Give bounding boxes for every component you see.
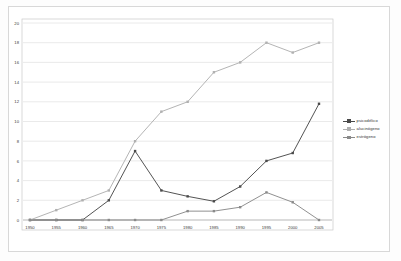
series-marker <box>292 51 294 53</box>
x-tick-label: 1960 <box>78 225 88 230</box>
series-marker <box>160 189 162 191</box>
series-marker <box>265 191 267 193</box>
series-marker <box>108 199 110 201</box>
y-tick-label: 12 <box>14 99 19 104</box>
y-tick-label: 10 <box>14 119 19 124</box>
x-tick-label: 1995 <box>262 225 272 230</box>
series-marker <box>160 219 162 221</box>
y-axis-tick-labels: 02468101214161820 <box>14 21 19 223</box>
series-marker <box>265 160 267 162</box>
y-tick-label: 4 <box>17 178 20 183</box>
series-marker <box>239 185 241 187</box>
series-marker <box>81 199 83 201</box>
y-tick-label: 18 <box>14 40 19 45</box>
series-marker <box>186 101 188 103</box>
series-marker <box>134 150 136 152</box>
y-tick-label: 6 <box>17 159 20 164</box>
series-marker <box>213 210 215 212</box>
series-marker <box>29 219 31 221</box>
series-marker <box>186 210 188 212</box>
series-marker <box>292 201 294 203</box>
y-tick-label: 8 <box>17 139 20 144</box>
series-marker <box>239 206 241 208</box>
x-tick-label: 1975 <box>157 225 167 230</box>
series-marker <box>239 61 241 63</box>
chart-legend: psicodélico alucinógeno estrógeno <box>343 117 399 142</box>
x-tick-label: 1985 <box>209 225 219 230</box>
series-marker <box>318 42 320 44</box>
x-tick-label: 1970 <box>130 225 140 230</box>
legend-swatch-alucinogeno <box>343 126 355 132</box>
x-tick-label: 1965 <box>104 225 114 230</box>
series-marker <box>318 219 320 221</box>
series-marker <box>292 152 294 154</box>
x-tick-label: 1955 <box>52 225 62 230</box>
chart-page: 02468101214161820 1950195519601965197019… <box>0 0 401 261</box>
x-tick-label: 1980 <box>183 225 193 230</box>
x-tick-label: 2000 <box>288 225 298 230</box>
series-marker <box>108 219 110 221</box>
series-marker <box>213 71 215 73</box>
series-marker <box>160 110 162 112</box>
line-chart-figure: 02468101214161820 1950195519601965197019… <box>0 0 401 261</box>
y-tick-label: 14 <box>14 80 19 85</box>
legend-item-estrogeno[interactable]: estrógeno <box>343 133 399 141</box>
series-marker <box>318 103 320 105</box>
y-tick-label: 0 <box>17 218 20 223</box>
x-tick-label: 1950 <box>25 225 35 230</box>
legend-swatch-psicodelico <box>343 118 355 124</box>
x-tick-label: 1990 <box>236 225 246 230</box>
series-marker <box>186 195 188 197</box>
series-marker <box>55 209 57 211</box>
y-tick-label: 20 <box>14 21 19 26</box>
series-marker <box>134 140 136 142</box>
series-marker <box>108 189 110 191</box>
legend-swatch-estrogeno <box>343 134 355 140</box>
series-marker <box>134 219 136 221</box>
legend-label-estrogeno: estrógeno <box>357 133 376 142</box>
series-marker <box>81 219 83 221</box>
series-marker <box>55 219 57 221</box>
x-tick-label: 2005 <box>314 225 324 230</box>
y-tick-label: 2 <box>17 198 20 203</box>
series-marker <box>265 42 267 44</box>
y-tick-label: 16 <box>14 60 19 65</box>
series-marker <box>213 200 215 202</box>
